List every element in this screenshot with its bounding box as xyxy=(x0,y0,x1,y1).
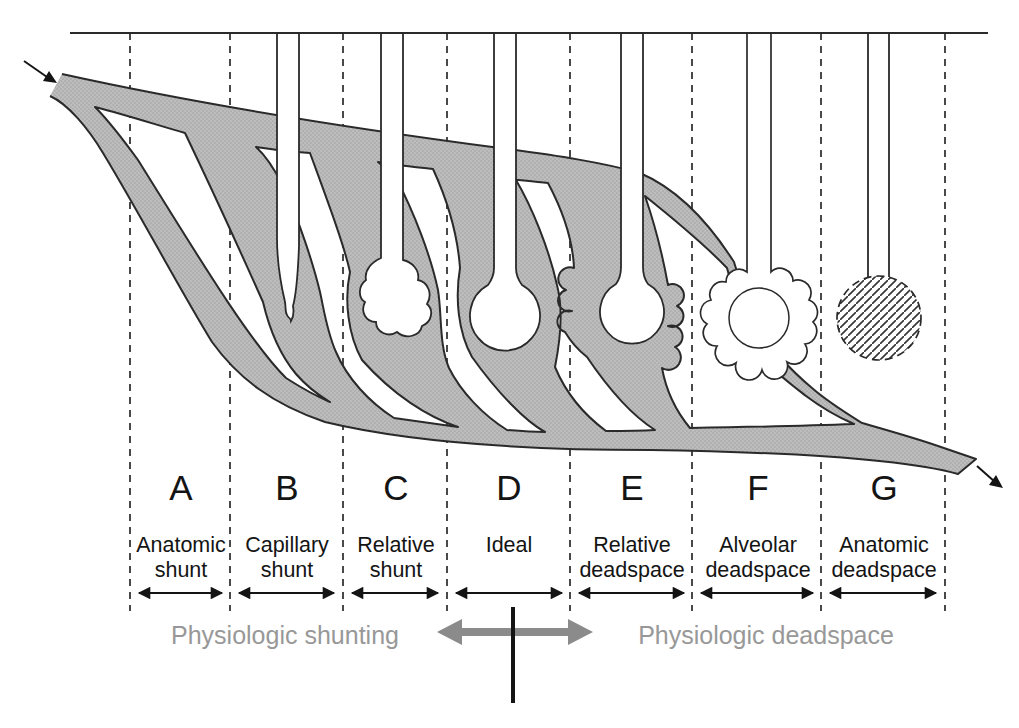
zone-letter: D xyxy=(496,468,521,507)
zone-g: G Anatomic deadspace xyxy=(830,468,937,593)
zone-letter: B xyxy=(275,468,298,507)
zone-d: D Ideal xyxy=(456,468,562,593)
hatched-alveolus-g xyxy=(837,276,921,360)
zone-label-line2: deadspace xyxy=(705,558,810,582)
zone-label-line1: Ideal xyxy=(486,533,533,557)
zone-f: F Alveolar deadspace xyxy=(701,468,813,593)
zone-label-line1: Anatomic xyxy=(136,533,226,557)
physiologic-shunting-label: Physiologic shunting xyxy=(171,621,399,649)
alveolus-f-inner-wall xyxy=(729,288,789,348)
airway-tube-g xyxy=(868,32,889,277)
zone-label-line2: deadspace xyxy=(579,558,684,582)
vq-spectrum-figure: A Anatomic shunt B Capillary shunt C Rel… xyxy=(0,0,1019,728)
zone-label-line1: Relative xyxy=(593,533,671,557)
zone-label-line1: Capillary xyxy=(245,533,329,557)
zone-label-line1: Alveolar xyxy=(719,533,797,557)
blood-outflow-arrow xyxy=(977,466,1003,488)
physiologic-deadspace-label: Physiologic deadspace xyxy=(638,621,894,649)
zone-label-line1: Relative xyxy=(357,533,435,557)
zone-label-line2: shunt xyxy=(370,558,423,582)
zone-label-line2: shunt xyxy=(155,558,208,582)
zone-label-line1: Anatomic xyxy=(839,533,929,557)
spectrum-divider-line xyxy=(511,607,515,703)
zone-c: C Relative shunt xyxy=(352,468,438,593)
zone-label-line2: deadspace xyxy=(831,558,936,582)
vq-spectrum-diagram: A Anatomic shunt B Capillary shunt C Rel… xyxy=(0,0,1019,728)
zone-label-line2: shunt xyxy=(261,558,314,582)
zone-a: A Anatomic shunt xyxy=(136,468,226,593)
zone-b: B Capillary shunt xyxy=(239,468,334,593)
zone-annotations: A Anatomic shunt B Capillary shunt C Rel… xyxy=(136,468,936,593)
zone-letter: G xyxy=(870,468,897,507)
zone-letter: C xyxy=(383,468,408,507)
blood-inflow-arrow xyxy=(24,61,57,83)
zone-letter: E xyxy=(620,468,643,507)
airway-tube-b xyxy=(277,32,299,321)
zone-e: E Relative deadspace xyxy=(579,468,685,593)
zone-letter: A xyxy=(169,468,193,507)
zone-letter: F xyxy=(747,468,768,507)
